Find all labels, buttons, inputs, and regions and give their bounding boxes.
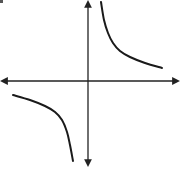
hyperbola-plot — [0, 0, 181, 169]
curve-branch-quadrant-1 — [101, 2, 162, 68]
curve-branch-quadrant-3 — [13, 95, 73, 161]
